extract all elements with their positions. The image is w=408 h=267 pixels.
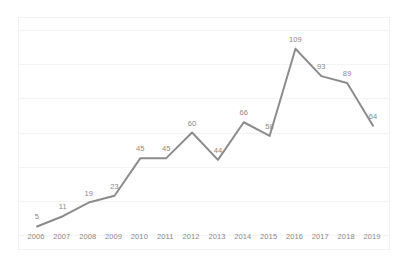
data-label: 44 bbox=[214, 146, 223, 155]
data-label: 93 bbox=[317, 62, 326, 71]
line-chart: 5111923454560446658109938964 20062007200… bbox=[0, 0, 408, 267]
x-tick-label: 2007 bbox=[53, 232, 70, 241]
data-label: 45 bbox=[162, 144, 171, 153]
x-tick-label: 2014 bbox=[234, 232, 251, 241]
x-tick-label: 2012 bbox=[183, 232, 200, 241]
data-label: 23 bbox=[110, 182, 119, 191]
x-tick-label: 2008 bbox=[79, 232, 96, 241]
series-line bbox=[19, 18, 391, 251]
x-tick-label: 2009 bbox=[105, 232, 122, 241]
data-label: 89 bbox=[343, 69, 352, 78]
data-label: 58 bbox=[265, 122, 274, 131]
data-label: 60 bbox=[188, 119, 197, 128]
x-tick-label: 2010 bbox=[131, 232, 148, 241]
x-tick-label: 2016 bbox=[286, 232, 303, 241]
data-label: 19 bbox=[84, 189, 93, 198]
x-axis-tick-labels: 2006200720082009201020112012201320142015… bbox=[18, 232, 390, 246]
data-label: 11 bbox=[59, 202, 67, 211]
x-tick-label: 2018 bbox=[338, 232, 355, 241]
x-tick-label: 2013 bbox=[208, 232, 225, 241]
x-tick-label: 2011 bbox=[157, 232, 174, 241]
x-tick-label: 2019 bbox=[363, 232, 380, 241]
x-tick-label: 2006 bbox=[27, 232, 44, 241]
x-tick-label: 2017 bbox=[312, 232, 329, 241]
data-label: 66 bbox=[239, 108, 248, 117]
series-polyline bbox=[37, 49, 373, 227]
data-label: 45 bbox=[136, 144, 145, 153]
data-label: 64 bbox=[369, 112, 378, 121]
data-label: 109 bbox=[289, 35, 302, 44]
x-tick-label: 2015 bbox=[260, 232, 277, 241]
plot-area: 5111923454560446658109938964 bbox=[18, 17, 390, 250]
data-label: 5 bbox=[35, 212, 39, 221]
